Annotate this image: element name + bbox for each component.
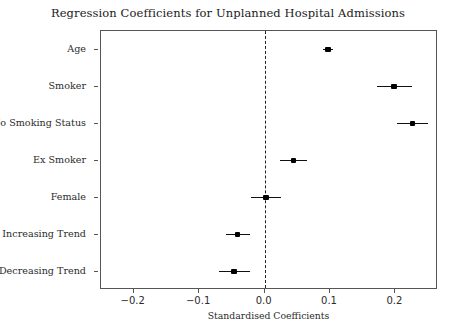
coefficient-marker (391, 84, 396, 89)
plot-area (100, 30, 437, 289)
y-axis-tick (94, 197, 98, 198)
chart-title: Regression Coefficients for Unplanned Ho… (0, 6, 456, 20)
x-axis-tick-label: −0.1 (186, 295, 210, 306)
y-axis-labels: AgeSmokerNo Smoking StatusEx SmokerFemal… (0, 30, 94, 289)
x-axis-label: Standardised Coefficients (100, 310, 437, 321)
y-axis-tick (94, 49, 98, 50)
x-axis-tick (329, 289, 330, 293)
coefficient-marker (235, 232, 240, 237)
zero-reference-line (265, 31, 266, 288)
x-axis-tick-label: 0.1 (321, 295, 337, 306)
coefficient-marker (263, 195, 268, 200)
coefficient-marker (410, 121, 415, 126)
coefficient-marker (231, 269, 236, 274)
x-axis-tick (133, 289, 134, 293)
coefficient-marker (325, 47, 330, 52)
y-axis-tick-label: Decreasing Trend (0, 265, 86, 276)
y-axis-tick (94, 123, 98, 124)
y-axis-tick-label: No Smoking Status (0, 117, 86, 128)
y-axis-tick-label: Ex Smoker (33, 154, 86, 165)
x-axis-tick-label: 0.2 (387, 295, 403, 306)
y-axis-tick-label: Age (67, 43, 86, 54)
x-axis-tick-label: 0.0 (256, 295, 272, 306)
y-axis-tick (94, 271, 98, 272)
y-axis-tick-label: Increasing Trend (2, 228, 86, 239)
y-axis-tick (94, 234, 98, 235)
x-axis-tick (394, 289, 395, 293)
x-axis-tick (198, 289, 199, 293)
y-axis-tick (94, 160, 98, 161)
x-axis-tick (264, 289, 265, 293)
y-axis-tick-label: Female (51, 191, 86, 202)
y-axis-tick-label: Smoker (48, 80, 86, 91)
y-axis-tick (94, 86, 98, 87)
coefficient-marker (291, 158, 296, 163)
chart-page: Regression Coefficients for Unplanned Ho… (0, 0, 456, 333)
x-axis-tick-label: −0.2 (121, 295, 145, 306)
